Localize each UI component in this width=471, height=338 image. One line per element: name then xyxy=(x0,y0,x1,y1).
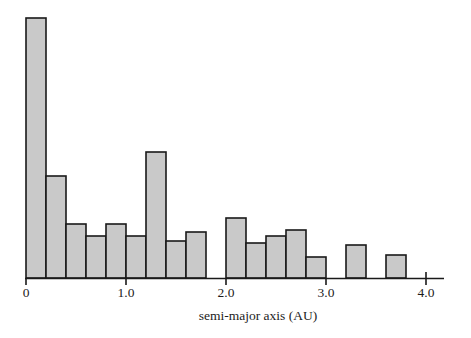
histogram-bar xyxy=(266,236,286,278)
histogram-bar xyxy=(146,152,166,278)
histogram-bar xyxy=(306,257,326,278)
histogram-bar xyxy=(186,232,206,278)
x-tick-label-1: 1.0 xyxy=(118,285,135,300)
histogram-bar xyxy=(386,255,406,278)
x-tick-label-0: 0 xyxy=(23,285,30,300)
histogram-bar xyxy=(346,245,366,278)
histogram-bar xyxy=(286,230,306,278)
histogram-bar xyxy=(106,224,126,278)
x-tick-label-4: 4.0 xyxy=(418,285,435,300)
histogram-bar xyxy=(66,224,86,278)
histogram-bar xyxy=(126,236,146,278)
x-axis-title: semi-major axis (AU) xyxy=(199,308,317,323)
x-tick-label-2: 2.0 xyxy=(218,285,235,300)
histogram-figure: 0 1.0 2.0 3.0 4.0 semi-major axis (AU) xyxy=(0,0,471,338)
histogram-bar xyxy=(46,176,66,278)
histogram-bar xyxy=(226,218,246,278)
bar-series xyxy=(26,18,406,278)
histogram-bar xyxy=(86,236,106,278)
x-tick-label-3: 3.0 xyxy=(318,285,335,300)
histogram-bar xyxy=(246,243,266,278)
chart-svg: 0 1.0 2.0 3.0 4.0 semi-major axis (AU) xyxy=(0,0,471,338)
histogram-bar xyxy=(26,18,46,278)
histogram-bar xyxy=(166,241,186,278)
